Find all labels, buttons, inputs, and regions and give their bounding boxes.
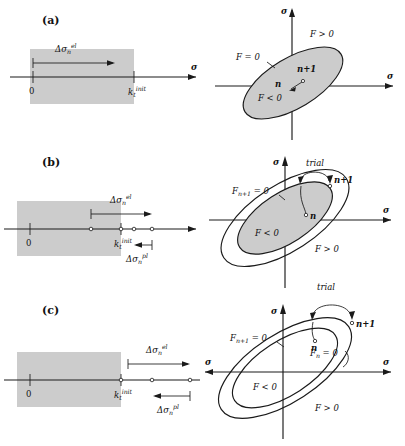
panel-a-left-diagram: σ 0 ktinit Δσnel <box>0 0 205 148</box>
panel-b-left-diagram: 0 ktinit Δσnel <box>0 148 205 294</box>
state-n-marker <box>304 213 307 216</box>
region-inside-label: F < 0 <box>254 228 279 238</box>
origin-label: 0 <box>26 389 31 399</box>
sigma-h-axis-label-left: σ <box>205 357 212 367</box>
yield-limit-sub: t <box>119 243 122 250</box>
state-n-label: n <box>311 343 317 353</box>
plastic-correction-sub: n <box>169 409 173 416</box>
elastic-increment-base: Δσ <box>109 195 122 205</box>
state-n-label: n <box>310 211 316 221</box>
figure-root: (a) σ 0 ktinit Δσnel <box>0 0 405 446</box>
sigma-h-axis-label: σ <box>383 205 390 215</box>
sigma-h-axis-arrowhead-left <box>205 369 213 375</box>
panel-b-right-diagram: σ σ Fn+1 = 0 F < 0 F > 0 trial n <box>205 148 405 294</box>
origin-label: 0 <box>26 238 31 248</box>
plastic-correction-label: Δσnpl <box>156 403 179 416</box>
elastic-increment-sup: el <box>126 193 132 200</box>
yield-limit-sup: init <box>136 85 147 92</box>
state-point-marker <box>301 79 304 82</box>
elastic-increment-label: Δσnel <box>145 343 168 356</box>
stress-axis-arrowhead <box>188 226 196 232</box>
yield-surface-label: F = 0 <box>235 52 260 62</box>
yield-limit-label: ktinit <box>114 388 133 401</box>
sigma-v-axis-label: σ <box>271 306 278 316</box>
state-marker-limit <box>119 378 123 382</box>
panel-a-right-diagram: σ σ F = 0 F > 0 F < 0 n n+1 <box>205 0 405 148</box>
current-surface-rest: = 0 <box>320 348 339 358</box>
yield-limit-sub: t <box>133 91 136 98</box>
sigma-v-axis-arrowhead <box>282 156 288 166</box>
panel-c: (c) 0 ktinit Δσnel <box>0 294 405 446</box>
updated-yield-surface-label: Fn+1 = 0 <box>231 186 270 197</box>
state-n-label: n <box>275 79 281 89</box>
elastic-increment-sub: n <box>67 48 71 55</box>
elastic-increment-sup: el <box>162 343 168 350</box>
yield-limit-sup: init <box>122 388 133 395</box>
updated-surface-sub: n+1 <box>238 190 251 197</box>
yield-limit-label: ktinit <box>128 85 147 98</box>
current-yield-surface-leader <box>343 351 348 367</box>
region-inside-label: F < 0 <box>257 93 282 103</box>
region-inside-label: F < 0 <box>252 382 277 392</box>
trial-bracket-arrow-right <box>349 311 355 320</box>
plastic-correction-sup: pl <box>173 403 179 411</box>
plastic-correction-arrowhead <box>134 242 142 247</box>
yield-surface-ellipse <box>232 33 354 134</box>
trial-label: trial <box>306 158 324 168</box>
updated-surface-rest: = 0 <box>249 333 268 343</box>
trial-label: trial <box>317 282 335 292</box>
updated-surface-rest: = 0 <box>251 186 270 196</box>
plastic-correction-label: Δσnpl <box>125 252 148 265</box>
sigma-h-axis-arrowhead <box>383 217 391 223</box>
updated-surface-sub: n+1 <box>236 337 249 344</box>
state-np1-marker <box>328 184 331 187</box>
state-marker-trial <box>150 227 154 231</box>
sigma-v-axis-arrowhead <box>289 8 295 17</box>
trial-bracket-arrow-right <box>327 175 333 184</box>
elastic-increment-arrowhead <box>144 211 152 216</box>
state-marker-limit <box>119 227 123 231</box>
state-np1-marker <box>350 321 353 324</box>
plastic-correction-sup: pl <box>142 252 148 260</box>
region-outside-label: F > 0 <box>314 403 339 413</box>
panel-c-right-diagram: σ σ σ Fn+1 = 0 Fn = 0 F < 0 F > 0 t <box>205 294 405 446</box>
panel-b: (b) 0 ktinit <box>0 148 405 294</box>
elastic-increment-base: Δσ <box>145 345 158 355</box>
return-mapping-path <box>312 322 315 340</box>
elastic-increment-label: Δσnel <box>109 193 132 206</box>
elastic-increment-arrowhead <box>182 361 190 366</box>
plastic-correction-base: Δσ <box>156 405 169 415</box>
sigma-v-axis-arrowhead <box>280 304 286 314</box>
state-np1-label: n+1 <box>334 175 353 185</box>
elastic-increment-sup: el <box>71 42 77 49</box>
plastic-correction-sub: n <box>138 258 142 265</box>
elastic-increment-sub: n <box>158 349 162 356</box>
yield-limit-sub: t <box>119 394 122 401</box>
sigma-h-axis-label: σ <box>383 357 390 367</box>
updated-yield-surface-label: Fn+1 = 0 <box>229 333 268 344</box>
state-marker-np1 <box>132 227 136 231</box>
region-outside-label: F > 0 <box>314 244 339 254</box>
sigma-h-axis-label: σ <box>387 71 394 81</box>
elastic-increment-sub: n <box>122 199 126 206</box>
sigma-axis-label: σ <box>191 62 198 72</box>
origin-label: 0 <box>29 86 34 96</box>
panel-c-left-diagram: 0 ktinit Δσnel Δσnpl <box>0 294 205 446</box>
sigma-v-axis-label: σ <box>281 6 288 16</box>
state-marker-trial <box>188 378 192 382</box>
state-marker-n <box>89 227 93 231</box>
updated-yield-surface-ellipse <box>203 298 368 438</box>
state-np1-label: n+1 <box>356 319 375 329</box>
trial-bracket-curve <box>301 172 329 182</box>
yield-limit-sup: init <box>122 237 133 244</box>
panel-a: (a) σ 0 ktinit Δσnel <box>0 0 405 148</box>
plastic-correction-arrowhead <box>153 393 161 398</box>
stress-axis-arrowhead <box>188 74 196 80</box>
elastic-increment-base: Δσ <box>54 44 67 54</box>
sigma-h-axis-arrowhead <box>385 83 393 89</box>
yield-limit-label: ktinit <box>114 237 133 250</box>
plastic-correction-base: Δσ <box>125 254 138 264</box>
state-np1-label: n+1 <box>297 64 316 74</box>
trial-bracket-curve <box>313 305 351 318</box>
state-marker-n <box>150 378 154 382</box>
